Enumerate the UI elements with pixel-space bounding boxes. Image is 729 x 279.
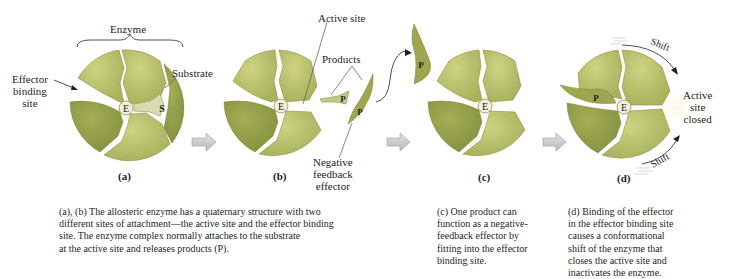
product-letter-2: P — [357, 107, 363, 117]
caption-ab: (a), (b) The allosteric enzyme has a qua… — [59, 206, 334, 255]
caption-d-line-4: shift of the enzyme that — [568, 243, 673, 255]
product-letter-3: P — [418, 60, 424, 70]
caption-d-line-6: inactivates the enzyme. — [568, 267, 673, 279]
panel-b-enzyme: E P P — [224, 22, 412, 158]
e-label-a: E — [123, 103, 129, 114]
caption-c: (c) One product can function as a negati… — [437, 206, 528, 267]
caption-ab-line-3: site. The enzyme complex normally attach… — [59, 230, 334, 242]
caption-c-line-2: function as a negative- — [437, 218, 528, 230]
enzyme-label: Enzyme — [110, 23, 146, 35]
caption-d: (d) Binding of the effector in the effec… — [568, 206, 673, 279]
panel-letter-b: (b) — [273, 170, 286, 182]
e-label-d: E — [621, 102, 627, 113]
nfe-line-3: effector — [313, 180, 353, 192]
panel-letter-c: (c) — [478, 171, 490, 183]
caption-c-line-4: fitting into the effector — [437, 243, 528, 255]
caption-c-line-1: (c) One product can — [437, 206, 528, 218]
caption-d-line-2: in the effector binding site — [568, 218, 673, 230]
panel-letter-a: (a) — [118, 170, 131, 182]
panel-letter-d: (d) — [617, 172, 630, 184]
caption-d-line-5: closes the active site and — [568, 255, 673, 267]
active-site-label: Active site — [318, 12, 365, 24]
process-arrow-2 — [387, 133, 410, 151]
effector-binding-site-label: Effector binding site — [12, 73, 48, 109]
effector-line-2: binding — [12, 85, 48, 97]
caption-ab-line-4: at the active site and releases products… — [59, 243, 334, 255]
e-label-c: E — [482, 101, 488, 112]
caption-d-line-1: (d) Binding of the effector — [568, 206, 673, 218]
caption-c-line-3: feedback effector by — [437, 230, 528, 242]
shift-label-top: Shift — [649, 36, 671, 54]
process-arrow-1 — [192, 133, 216, 151]
asc-line-1: Active — [683, 89, 712, 101]
active-site-closed-label: Active site closed — [683, 89, 712, 125]
caption-ab-line-1: (a), (b) The allosteric enzyme has a qua… — [59, 206, 334, 218]
nfe-line-2: feedback — [313, 168, 353, 180]
negative-feedback-effector-label: Negative feedback effector — [313, 156, 353, 192]
e-label-b: E — [278, 101, 284, 112]
effector-line-3: site — [12, 97, 48, 109]
caption-c-line-5: binding site. — [437, 255, 528, 267]
asc-line-3: closed — [683, 113, 712, 125]
product-letter-4: P — [593, 93, 599, 103]
nfe-line-1: Negative — [313, 156, 353, 168]
panel-c-enzyme: P E — [412, 24, 525, 156]
caption-ab-line-2: different sites of attachment—the active… — [59, 218, 334, 230]
shift-label-bottom: Shift — [649, 150, 672, 169]
panel-d-enzyme: P E Shift Shift — [560, 36, 696, 174]
product-letter-1: P — [340, 94, 346, 104]
products-label: Products — [322, 53, 361, 65]
process-arrow-3 — [543, 133, 566, 151]
asc-line-2: site — [683, 101, 712, 113]
effector-line-1: Effector — [12, 73, 48, 85]
substrate-letter: S — [159, 103, 165, 114]
substrate-label: Substrate — [172, 67, 213, 79]
caption-d-line-3: causes a conformational — [568, 230, 673, 242]
panel-a-enzyme: E S — [54, 34, 184, 161]
